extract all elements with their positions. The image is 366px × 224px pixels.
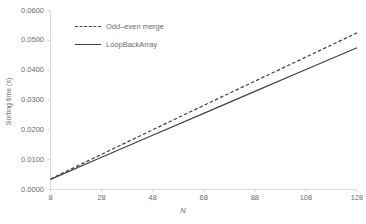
y-tick-label: 0.0000 [0, 186, 50, 194]
legend-label-1: Odd–even merge [106, 22, 164, 31]
plot-area [0, 0, 366, 224]
x-tick-label: 28 [85, 194, 119, 202]
x-tick-label: 108 [289, 194, 323, 202]
y-tick-label: 0.0600 [0, 7, 50, 15]
x-tick-label: 128 [340, 194, 366, 202]
legend-label-2: LoopBackArray [106, 40, 157, 49]
legend-swatch-2 [75, 44, 101, 45]
series-line-2 [51, 48, 358, 180]
x-tick-label: 88 [238, 194, 272, 202]
x-tick-label: 68 [187, 194, 221, 202]
y-tick-label: 0.0500 [0, 36, 50, 44]
x-tick-label: 8 [34, 194, 68, 202]
axis-lines [48, 11, 358, 193]
x-tick-label: 48 [136, 194, 170, 202]
y-tick-label: 0.0200 [0, 126, 50, 134]
y-tick-label: 0.0100 [0, 156, 50, 164]
legend-swatch-1 [75, 26, 101, 27]
chart-container: Sorting time (s) 0.00000.01000.02000.030… [0, 0, 366, 224]
series-line-1 [51, 33, 358, 179]
data-series-group [51, 33, 358, 179]
y-tick-label: 0.0400 [0, 66, 50, 74]
y-tick-label: 0.0300 [0, 96, 50, 104]
x-axis-title: N [163, 206, 203, 215]
